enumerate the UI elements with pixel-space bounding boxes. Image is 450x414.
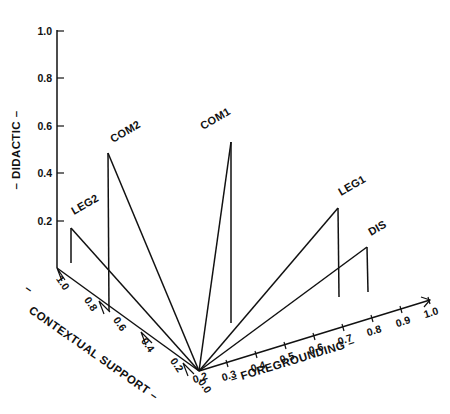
vertical-tick-label: 0.4 xyxy=(37,167,52,179)
vertical-tick-label: 0.6 xyxy=(37,120,52,132)
right-tick xyxy=(226,360,228,367)
vertical-axis: 1.00.80.60.40.2 – DIDACTIC – xyxy=(10,25,64,268)
spike-leg1 xyxy=(338,208,339,297)
right-axis-line xyxy=(199,300,430,371)
right-tick-label: 0.8 xyxy=(365,322,383,338)
data-rays xyxy=(71,142,367,371)
point-label-leg1: LEG1 xyxy=(336,173,368,198)
point-label-com1: COM1 xyxy=(198,105,232,132)
data-point-labels: LEG2COM2COM1LEG1DIS xyxy=(69,105,388,238)
right-tick xyxy=(255,351,257,358)
vertical-tick-label: 1.0 xyxy=(37,25,52,37)
point-label-dis: DIS xyxy=(366,218,388,238)
ray-com1 xyxy=(199,142,231,371)
left-axis-title: CONTEXTUAL SUPPORT – xyxy=(27,304,161,403)
right-tick-label: 0.9 xyxy=(394,313,412,329)
spike-com2 xyxy=(108,153,109,311)
left-axis-title-dash: – xyxy=(23,282,36,296)
vertical-axis-ticks xyxy=(57,31,64,221)
left-axis: 1.00.80.60.40.20.0 CONTEXTUAL SUPPORT – … xyxy=(23,268,215,403)
point-label-leg2: LEG2 xyxy=(69,192,101,217)
right-axis: 0.20.30.40.50.60.70.80.91.0 – FOREGROUND… xyxy=(191,297,440,385)
vertical-axis-title: – DIDACTIC – xyxy=(10,110,22,189)
vertical-tick-label: 0.8 xyxy=(37,72,52,84)
plot-canvas: 1.00.80.60.40.2 – DIDACTIC – 1.00.80.60.… xyxy=(0,0,450,414)
spike-dis xyxy=(367,247,368,292)
point-label-com2: COM2 xyxy=(108,118,142,145)
left-tick-label: 0.6 xyxy=(111,314,129,333)
chart-figure: 1.00.80.60.40.2 – DIDACTIC – 1.00.80.60.… xyxy=(0,0,450,414)
left-tick-label: 0.2 xyxy=(168,355,186,374)
vertical-tick-label: 0.2 xyxy=(37,215,52,227)
vertical-axis-tick-labels: 1.00.80.60.40.2 xyxy=(37,25,52,227)
left-tick-label: 1.0 xyxy=(54,273,72,292)
